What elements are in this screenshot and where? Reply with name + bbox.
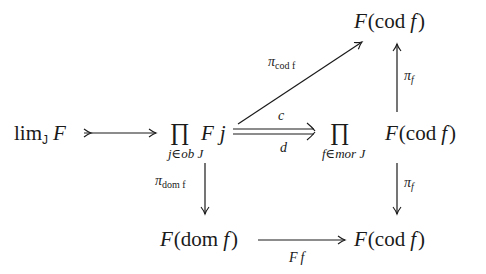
symbol-F: F xyxy=(384,121,398,145)
label-pi-cod-f: πcod f xyxy=(268,54,296,71)
svg-text:limJF: limJF xyxy=(14,121,66,147)
product-symbol: ∏ xyxy=(170,119,190,145)
subscript-cod-f: cod f xyxy=(275,60,296,71)
svg-text:Ff: Ff xyxy=(288,250,307,265)
paren-open: ( xyxy=(368,227,375,251)
paren-close: ) xyxy=(449,121,456,145)
symbol-j: j xyxy=(217,121,226,145)
paren-open: ( xyxy=(399,121,406,145)
label-pi-dom-f: πdom f xyxy=(155,173,186,190)
text-cod: cod xyxy=(375,227,406,251)
commutative-diagram: F(codf) limJF ∏ j∈ob J Fj c d ∏ xyxy=(0,0,486,274)
text-cod: cod xyxy=(406,121,437,145)
product-subscript: j∈ob J xyxy=(166,146,204,161)
node-top-F-cod-f: F(codf) xyxy=(353,9,425,33)
paren-open: ( xyxy=(174,227,181,251)
symbol-F: F xyxy=(353,9,367,33)
paren-close: ) xyxy=(418,227,425,251)
svg-text:F(codf): F(codf) xyxy=(353,227,425,251)
label-Ff: Ff xyxy=(288,250,307,265)
paren-close: ) xyxy=(418,9,425,33)
arrow-c xyxy=(233,123,315,131)
symbol-f: f xyxy=(301,250,307,265)
subscript-f: f xyxy=(411,74,415,85)
label-pi-f-up: πf xyxy=(404,68,415,85)
paren-close: ) xyxy=(231,227,238,251)
svg-text:F(codf): F(codf) xyxy=(353,9,425,33)
label-c: c xyxy=(278,108,285,123)
subscript-f-in-mor-J: f∈mor J xyxy=(322,146,366,161)
product-subscript: f∈mor J xyxy=(322,146,366,161)
svg-text:πf: πf xyxy=(404,68,415,85)
symbol-F: F xyxy=(200,121,214,145)
node-limit: limJF xyxy=(14,121,66,147)
svg-text:πdom f: πdom f xyxy=(155,173,186,190)
label-pi-f-down: πf xyxy=(404,175,415,192)
label-c-text: c xyxy=(278,108,285,123)
arrow-d xyxy=(233,132,315,140)
text-lim: lim xyxy=(14,121,42,145)
symbol-F: F xyxy=(159,227,173,251)
node-product-mor: ∏ f∈mor J F(codf) xyxy=(322,119,456,161)
node-bottom-F-cod-f: F(codf) xyxy=(353,227,425,251)
svg-text:πf: πf xyxy=(404,175,415,192)
text-cod: cod xyxy=(375,9,406,33)
svg-text:Fj: Fj xyxy=(200,121,226,145)
text-dom: dom xyxy=(181,227,218,251)
paren-open: ( xyxy=(368,9,375,33)
subscript-f: f xyxy=(411,181,415,192)
symbol-F: F xyxy=(52,121,66,145)
product-symbol: ∏ xyxy=(330,119,350,145)
label-d: d xyxy=(280,140,288,155)
symbol-F: F xyxy=(353,227,367,251)
node-product-ob: ∏ j∈ob J Fj xyxy=(166,119,226,161)
svg-text:F(codf): F(codf) xyxy=(384,121,456,145)
node-bottom-F-dom-f: F(domf) xyxy=(159,227,238,251)
subscript-dom-f: dom f xyxy=(162,179,186,190)
label-d-text: d xyxy=(280,140,288,155)
arrow-pi-cod-f xyxy=(238,42,362,124)
svg-text:F(domf): F(domf) xyxy=(159,227,238,251)
svg-text:πcod f: πcod f xyxy=(268,54,296,71)
arrow-monomorphism-lim-to-product xyxy=(84,129,156,137)
subscript-j-in-ob-J: j∈ob J xyxy=(166,146,204,161)
subscript-J: J xyxy=(42,133,48,147)
symbol-F: F xyxy=(288,250,298,265)
